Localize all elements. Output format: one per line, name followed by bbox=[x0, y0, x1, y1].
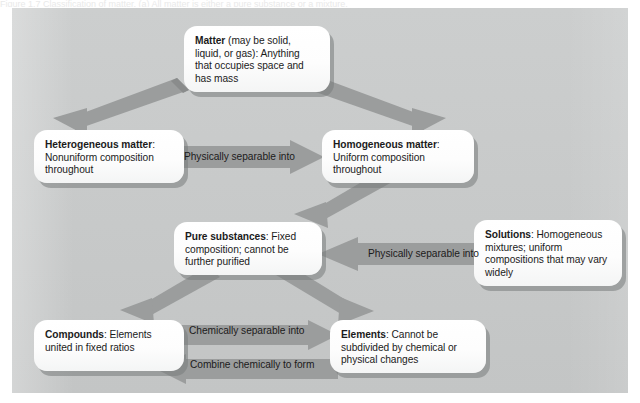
node-homogeneous-matter: Homogeneous matter: Uniform composition … bbox=[322, 130, 474, 183]
figure-container: Figure 1.7 Classification of matter. (a)… bbox=[0, 0, 640, 403]
diagram-panel: Physically separable into Physically sep… bbox=[12, 8, 628, 393]
node-matter-term: Matter bbox=[195, 35, 225, 46]
arrow-label-physically-separable-into-1: Physically separable into bbox=[184, 151, 295, 163]
node-solutions: Solutions: Homogeneous mixtures; uniform… bbox=[474, 220, 622, 286]
node-heterogeneous-matter-term: Heterogeneous matter bbox=[45, 139, 152, 150]
arrow-matter-to-homogeneous bbox=[310, 76, 470, 136]
arrow-label-chemically-separable-into: Chemically separable into bbox=[189, 325, 304, 337]
node-solutions-term: Solutions bbox=[485, 229, 531, 240]
arrow-matter-to-heterogeneous bbox=[29, 76, 189, 136]
arrow-label-combine-chemically-to-form: Combine chemically to form bbox=[190, 359, 314, 371]
node-pure-substances: Pure substances: Fixed composition; cann… bbox=[174, 222, 322, 275]
node-elements-term: Elements bbox=[341, 329, 386, 340]
node-homogeneous-matter-term: Homogeneous matter bbox=[333, 139, 437, 150]
figure-caption-sliver: Figure 1.7 Classification of matter. (a)… bbox=[0, 0, 640, 7]
node-elements: Elements: Cannot be subdivided by chemic… bbox=[330, 320, 486, 373]
node-compounds: Compounds: Elements united in fixed rati… bbox=[34, 320, 184, 371]
arrow-label-physically-separable-into-2: Physically separable into bbox=[368, 248, 479, 260]
node-heterogeneous-matter: Heterogeneous matter: Nonuniform composi… bbox=[34, 130, 184, 183]
node-matter: Matter (may be solid, liquid, or gas): A… bbox=[184, 26, 330, 92]
node-pure-substances-term: Pure substances bbox=[185, 231, 266, 242]
node-compounds-term: Compounds bbox=[45, 329, 104, 340]
